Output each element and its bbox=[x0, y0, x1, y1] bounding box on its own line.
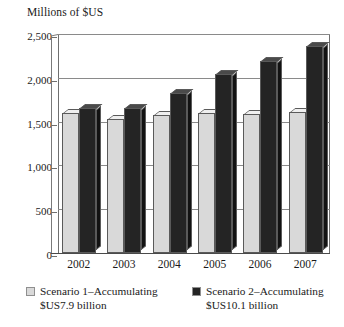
y-tick-mark bbox=[51, 125, 57, 126]
legend-label-scenario-1-line1: Scenario 1–Accumulating bbox=[40, 285, 158, 297]
bar-front-face bbox=[306, 46, 323, 253]
x-tick-label: 2002 bbox=[67, 258, 90, 270]
bar-2004-series1 bbox=[153, 111, 170, 253]
bar-side-face bbox=[232, 72, 237, 250]
y-tick-mark bbox=[51, 81, 57, 82]
bar-2005-series2 bbox=[215, 70, 232, 253]
y-tick-mark bbox=[51, 212, 57, 213]
bar-2003-series2 bbox=[124, 104, 141, 253]
y-tick-label: 500 bbox=[36, 205, 53, 217]
bar-2006-series1 bbox=[243, 110, 260, 253]
bar-front-face bbox=[198, 113, 215, 253]
bar-side-face bbox=[323, 44, 328, 250]
y-tick-mark bbox=[51, 168, 57, 169]
bar-2002-series2 bbox=[79, 104, 96, 253]
bar-side-face bbox=[277, 59, 282, 250]
y-tick-label: 2,000 bbox=[27, 74, 52, 86]
legend-swatch-scenario-1 bbox=[26, 287, 35, 296]
bar-front-face bbox=[215, 74, 232, 253]
plot-left-wall bbox=[51, 34, 58, 254]
x-tick-label: 2003 bbox=[113, 258, 136, 270]
bar-chart-figure: Millions of $US 05001,0001,5002,0002,500… bbox=[0, 0, 344, 327]
bar-group bbox=[239, 34, 284, 253]
gridline bbox=[58, 253, 330, 254]
legend-label-scenario-2-line1: Scenario 2–Accumulating bbox=[206, 285, 324, 297]
x-tick-label: 2004 bbox=[158, 258, 181, 270]
bar-2005-series1 bbox=[198, 109, 215, 253]
bar-front-face bbox=[170, 93, 187, 253]
y-tick-label: 1,000 bbox=[27, 161, 52, 173]
x-tick-label: 2005 bbox=[203, 258, 226, 270]
y-axis-title: Millions of $US bbox=[27, 6, 103, 18]
x-tick-label: 2007 bbox=[294, 258, 317, 270]
bar-front-face bbox=[243, 114, 260, 253]
legend-item-scenario-2: Scenario 2–Accumulating $US10.1 billion bbox=[192, 284, 324, 312]
bar-2007-series2 bbox=[306, 42, 323, 253]
y-tick-label: 1,500 bbox=[27, 118, 52, 130]
bar-2007-series1 bbox=[289, 108, 306, 253]
bar-2002-series1 bbox=[62, 109, 79, 253]
bar-2004-series2 bbox=[170, 89, 187, 253]
y-axis-tick-labels: 05001,0001,5002,0002,500 bbox=[0, 34, 52, 253]
legend-label-scenario-1-line2: $US7.9 billion bbox=[40, 298, 158, 312]
bar-group bbox=[194, 34, 239, 253]
bar-front-face bbox=[289, 112, 306, 253]
bar-front-face bbox=[260, 61, 277, 253]
bar-front-face bbox=[124, 108, 141, 253]
x-tick-label: 2006 bbox=[249, 258, 272, 270]
bar-group bbox=[285, 34, 330, 253]
legend-item-scenario-1: Scenario 1–Accumulating $US7.9 billion bbox=[26, 284, 158, 312]
bar-2003-series1 bbox=[107, 115, 124, 253]
plot-area bbox=[58, 34, 330, 253]
bar-front-face bbox=[62, 113, 79, 253]
chart-legend: Scenario 1–Accumulating $US7.9 billion S… bbox=[0, 284, 344, 327]
y-tick-mark bbox=[51, 256, 57, 257]
bar-front-face bbox=[153, 115, 170, 253]
bar-front-face bbox=[79, 108, 96, 253]
legend-label-scenario-2-line2: $US10.1 billion bbox=[206, 298, 324, 312]
y-tick-mark bbox=[51, 37, 57, 38]
bar-side-face bbox=[141, 106, 146, 250]
bar-side-face bbox=[96, 107, 101, 250]
bar-side-face bbox=[187, 91, 192, 250]
legend-label-scenario-2: Scenario 2–Accumulating $US10.1 billion bbox=[206, 284, 324, 312]
bar-2006-series2 bbox=[260, 57, 277, 253]
x-axis-tick-labels: 200220032004200520062007 bbox=[58, 258, 330, 276]
legend-label-scenario-1: Scenario 1–Accumulating $US7.9 billion bbox=[40, 284, 158, 312]
bar-group bbox=[103, 34, 148, 253]
bar-front-face bbox=[107, 119, 124, 253]
y-tick-label: 2,500 bbox=[27, 30, 52, 42]
bar-group bbox=[149, 34, 194, 253]
legend-swatch-scenario-2 bbox=[192, 287, 201, 296]
bar-group bbox=[58, 34, 103, 253]
